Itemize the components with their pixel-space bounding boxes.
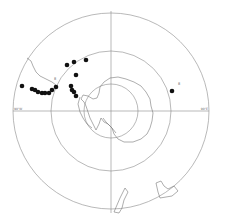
marker-label: 8 [178,82,180,86]
data-point [20,84,25,89]
data-point [54,85,59,90]
south-america-coastline [27,58,56,85]
meridian-label: 90°E [201,107,208,111]
marker-label: 8 [54,77,56,81]
data-point [50,88,55,93]
data-point [74,73,79,78]
data-point [84,58,89,63]
data-points [20,58,175,99]
data-point [72,60,77,65]
data-point [69,84,74,89]
data-point [43,91,48,96]
antarctica-coastline [78,77,153,142]
data-point [36,90,41,95]
data-point [170,89,175,94]
data-point [74,94,79,99]
data-point [65,63,70,68]
antarctic-polar-map: 88 90°W90°E [0,0,225,224]
meridian-label: 90°W [14,107,22,111]
data-point [72,90,77,95]
